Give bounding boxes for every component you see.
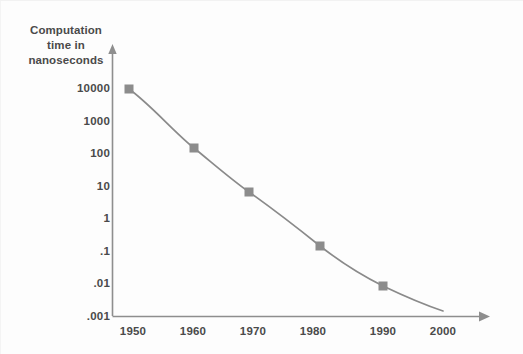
y-axis xyxy=(108,44,116,316)
data-point-marker xyxy=(245,188,254,197)
data-point-marker xyxy=(125,85,134,94)
chart-plot-area xyxy=(0,0,523,354)
x-axis-arrow-icon xyxy=(479,312,490,322)
chart-figure: Computation time in nanoseconds 10000 10… xyxy=(0,0,523,354)
data-point-marker xyxy=(379,282,388,291)
y-axis-arrow-icon xyxy=(108,44,116,54)
x-axis xyxy=(113,312,491,322)
series-line xyxy=(129,89,443,311)
data-point-marker xyxy=(190,144,199,153)
data-series-computation-time xyxy=(125,85,444,312)
data-point-marker xyxy=(316,242,325,251)
